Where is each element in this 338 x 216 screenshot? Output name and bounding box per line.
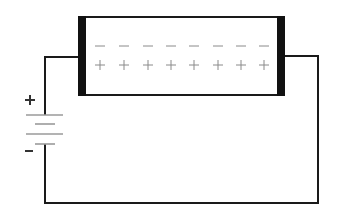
- battery-negative-label: −: [0, 0, 1, 1]
- left-wire: [45, 57, 78, 115]
- capacitor-outline: [82, 17, 280, 95]
- battery-positive-sign: [25, 95, 35, 105]
- capacitor-left-plate: [78, 16, 86, 96]
- capacitor: [78, 16, 285, 96]
- capacitor-right-plate: [277, 16, 285, 96]
- circuit-diagram-svg: [0, 0, 338, 216]
